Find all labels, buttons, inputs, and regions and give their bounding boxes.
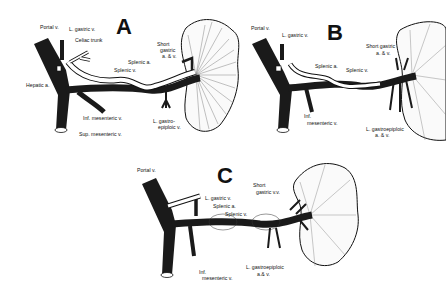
label-b-short-gastric-2: a. & v.: [376, 51, 390, 57]
panel-letter-c: C: [217, 163, 233, 189]
label-b-l-gastric-v: L. gastric v.: [282, 33, 308, 39]
label-a-l-gastroepiploic-2: epiploic v.: [158, 125, 181, 131]
label-c-l-gastroepiploic-2: a.& v.: [257, 272, 270, 278]
label-c-l-gastric-v: L. gastric v.: [205, 196, 231, 202]
label-c-splenic-v: Splenic v.: [225, 212, 247, 218]
label-a-celiac-trunk: Celiac trunk: [75, 38, 102, 44]
label-a-portal-v: Portal v.: [40, 25, 59, 31]
portal-vein-b: [252, 38, 292, 130]
label-a-splenic-a: Splenic a.: [128, 60, 151, 66]
panel-letter-a: A: [116, 14, 132, 40]
label-c-short-gastric-1: Short: [253, 183, 265, 189]
label-a-splenic-v: Splenic v.: [114, 68, 136, 74]
label-c-short-gastric-2: gastric v.v.: [256, 190, 280, 196]
label-a-l-gastric-v: L. gastric v.: [69, 27, 95, 33]
label-c-splenic-a: Splenic a.: [213, 204, 236, 210]
label-b-splenic-v: Splenic v.: [346, 68, 368, 74]
label-b-short-gastric-1: Short gastric: [366, 44, 395, 50]
label-c-l-gastroepiploic-1: L. gastroepiploic: [246, 265, 284, 271]
panel-a-diagram: [34, 20, 239, 133]
label-b-inf-mesenteric-1: Inf.: [304, 114, 311, 120]
label-b-l-gastroepiploic-2: a. & v.: [375, 133, 389, 139]
label-a-hepatic-a: Hepatic a.: [26, 83, 49, 89]
label-b-splenic-a: Splenic a.: [315, 64, 338, 70]
label-b-portal-v: Portal v.: [251, 26, 270, 32]
label-a-sup-mesenteric-v: Sup. mesenteric v.: [79, 132, 122, 138]
label-a-inf-mesenteric-v: Inf. mesenteric v.: [83, 116, 122, 122]
label-a-short-gastric-3: a. & v.: [162, 54, 176, 60]
label-b-inf-mesenteric-2: mesenteric v.: [307, 121, 337, 127]
panel-c-diagram: [142, 164, 358, 278]
label-c-inf-mesenteric-2: mesenteric v.: [202, 276, 232, 282]
portal-vein-c: [142, 178, 176, 275]
panel-letter-b: B: [327, 20, 343, 46]
panel-b-diagram: [252, 22, 446, 141]
label-c-portal-v: Portal v.: [137, 168, 156, 174]
